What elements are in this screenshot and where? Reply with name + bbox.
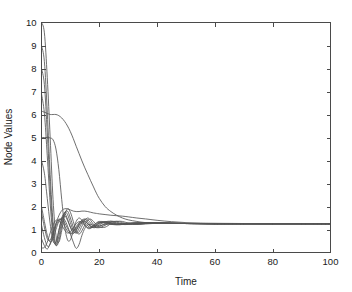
x-tick-label: 40 bbox=[152, 256, 163, 267]
y-tick-label: 3 bbox=[31, 178, 36, 189]
line-chart: 020406080100012345678910 Time Node Value… bbox=[0, 0, 352, 292]
axis-layer bbox=[42, 23, 331, 253]
series-line bbox=[42, 46, 331, 246]
y-tick-label: 2 bbox=[31, 201, 36, 212]
y-tick-label: 10 bbox=[26, 17, 37, 28]
series-line bbox=[42, 207, 331, 249]
x-tick-label: 80 bbox=[267, 256, 278, 267]
y-tick-label: 5 bbox=[31, 132, 36, 143]
x-tick-label: 20 bbox=[94, 256, 105, 267]
y-tick-label: 6 bbox=[31, 109, 36, 120]
series-line bbox=[42, 111, 331, 224]
x-tick-label: 100 bbox=[323, 256, 339, 267]
series-layer bbox=[42, 23, 331, 250]
y-tick-label: 7 bbox=[31, 86, 36, 97]
x-tick-label: 60 bbox=[210, 256, 221, 267]
x-axis-title: Time bbox=[175, 276, 197, 287]
y-tick-label: 9 bbox=[31, 40, 36, 51]
y-axis-title: Node Values bbox=[3, 109, 14, 166]
y-tick-label: 8 bbox=[31, 63, 36, 74]
y-tick-label: 1 bbox=[31, 224, 36, 235]
axis-box bbox=[42, 23, 331, 253]
y-tick-label: 4 bbox=[31, 155, 36, 166]
series-line bbox=[42, 23, 331, 243]
x-tick-label: 0 bbox=[39, 256, 44, 267]
y-tick-label: 0 bbox=[31, 247, 36, 258]
series-line bbox=[42, 161, 331, 244]
figure-container: 020406080100012345678910 Time Node Value… bbox=[0, 0, 352, 292]
